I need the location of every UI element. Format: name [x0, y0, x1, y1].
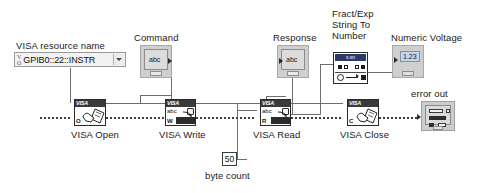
error-out-glyph-status — [429, 109, 443, 113]
wire-bytecount-to-read[interactable] — [237, 110, 257, 111]
visa-read-corner-label: R — [262, 118, 266, 124]
visa-read-header: VISA — [261, 100, 290, 107]
visa-read-label: VISA Read — [253, 129, 300, 140]
response-terminal-inner: abc — [281, 49, 305, 70]
visa-write-node[interactable]: VISA abc W — [165, 99, 196, 126]
visa-write-header: VISA — [166, 100, 195, 107]
visa-open-header: VISA — [75, 100, 105, 107]
wire-visa-resource-to-open[interactable] — [70, 68, 71, 103]
command-terminal-stub — [150, 71, 162, 76]
error-out-glyph-code — [446, 109, 450, 113]
error-wire-write-to-read[interactable] — [196, 117, 256, 119]
error-out-terminal-inner — [425, 105, 451, 125]
visa-open-node[interactable]: VISA O — [74, 99, 106, 126]
numeric-voltage-terminal[interactable]: 1.23 — [392, 45, 424, 78]
prim-glyph-sq5 — [361, 75, 366, 80]
response-label: Response — [273, 32, 317, 43]
wire-read-string-out[interactable] — [291, 114, 320, 115]
error-out-port-icon — [417, 114, 421, 120]
visa-write-label: VISA Write — [159, 129, 206, 140]
visa-read-row-label: abc — [262, 108, 272, 115]
visa-open-label: VISA Open — [71, 129, 119, 140]
prim-glyph-sq3 — [355, 65, 359, 69]
visa-close-label: VISA Close — [340, 129, 389, 140]
prim-glyph-circle — [337, 74, 344, 81]
command-terminal[interactable]: abc — [140, 45, 172, 78]
wire-number-to-numeric[interactable] — [368, 72, 392, 73]
fract-exp-string-to-number-label: Fract/Exp String To Number — [332, 8, 374, 41]
error-out-terminal[interactable] — [421, 101, 455, 131]
wire-string-up[interactable] — [320, 64, 321, 115]
error-wire-open-to-write[interactable] — [106, 117, 172, 119]
byte-count-label: byte count — [205, 170, 250, 181]
response-terminal[interactable]: abc — [277, 45, 309, 78]
fract-exp-string-to-number-node[interactable]: s.sn — [333, 52, 368, 84]
wire-command-branch-v[interactable] — [140, 95, 141, 104]
numeric-voltage-label: Numeric Voltage — [391, 32, 462, 43]
wire-command-branch[interactable] — [140, 95, 172, 96]
visa-close-header: VISA — [348, 100, 378, 107]
block-diagram-canvas: VISA resource name VO GPIB0::22::INSTR C… — [0, 0, 487, 193]
error-wire-open-in[interactable] — [40, 117, 70, 119]
response-terminal-stub — [287, 71, 299, 76]
string-to-number-badge: s.sn — [335, 54, 366, 61]
wire-string-to-prim[interactable] — [320, 64, 333, 65]
visa-read-node[interactable]: VISA abc R — [260, 99, 291, 126]
wire-response-down[interactable] — [292, 78, 293, 114]
numeric-terminal-port-icon — [394, 57, 398, 63]
error-out-label: error out — [411, 88, 448, 99]
numeric-terminal-stub — [402, 71, 414, 76]
wire-read-to-close[interactable] — [291, 103, 343, 104]
prim-divider — [335, 72, 366, 73]
command-terminal-port-icon — [168, 58, 172, 64]
visa-open-corner-label: O — [76, 118, 81, 124]
visa-close-node[interactable]: VISA C — [347, 99, 379, 126]
visa-open-icon — [82, 108, 106, 125]
wire-open-to-write[interactable] — [106, 103, 171, 104]
prim-glyph-arrow-head — [356, 74, 359, 78]
prim-glyph-sq4 — [361, 65, 365, 69]
visa-write-device-icon — [176, 117, 195, 124]
wire-bytecount-up[interactable] — [237, 103, 238, 159]
prim-glyph-sq1 — [338, 65, 342, 69]
visa-close-corner-label: C — [349, 118, 353, 124]
wire-bytecount-h[interactable] — [237, 159, 247, 160]
visa-close-icon — [356, 108, 379, 125]
visa-resource-value: GPIB0::22::INSTR — [21, 55, 95, 65]
visa-resource-name-control[interactable]: VO GPIB0::22::INSTR — [14, 52, 126, 67]
wire-write-to-read[interactable] — [196, 103, 266, 104]
wire-read-resource-in[interactable] — [266, 96, 286, 97]
error-out-terminal-stub — [433, 126, 443, 130]
command-datatype-label: abc — [145, 56, 160, 63]
response-terminal-port-icon — [279, 58, 283, 64]
byte-count-constant[interactable]: 50 — [222, 152, 237, 166]
visa-write-row-label: abc — [167, 108, 177, 115]
prim-glyph-sq2 — [344, 65, 348, 69]
numeric-voltage-value: 1.23 — [400, 51, 420, 62]
error-wire-read-to-close[interactable] — [291, 117, 343, 119]
visa-resource-name-label: VISA resource name — [16, 40, 105, 51]
error-out-glyph-source — [429, 116, 446, 120]
error-wire-close-to-errorout[interactable] — [379, 117, 419, 119]
command-label: Command — [134, 32, 179, 43]
visa-write-corner-label: W — [167, 118, 173, 124]
chevron-down-icon[interactable] — [113, 54, 124, 65]
response-datatype-label: abc — [282, 56, 297, 63]
visa-read-device-icon — [271, 117, 290, 124]
command-terminal-inner: abc — [144, 49, 168, 70]
